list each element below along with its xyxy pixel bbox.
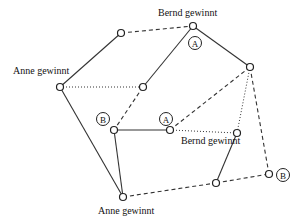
edge-dashed-p4-p6 xyxy=(114,87,143,130)
vertices-layer xyxy=(57,23,273,201)
edge-dashed-p11-p9 xyxy=(123,183,216,197)
vertex-p11 xyxy=(120,194,127,201)
player-badge-a: A xyxy=(160,113,173,126)
edge-solid-p2-p4 xyxy=(143,26,193,87)
vertex-p4 xyxy=(140,84,147,91)
svg-text:A: A xyxy=(192,39,199,49)
outcome-label: Bernd gewinnt xyxy=(158,7,217,18)
edge-solid-p3-p11 xyxy=(60,87,123,197)
edge-dotted-p5-p8 xyxy=(237,67,250,133)
game-graph-diagram: ABAB Bernd gewinntAnne gewinntBernd gewi… xyxy=(0,0,299,224)
svg-text:A: A xyxy=(163,115,170,125)
edge-dashed-p1-p2 xyxy=(121,26,193,33)
player-badge-a: A xyxy=(189,37,202,50)
vertex-p3 xyxy=(57,84,64,91)
vertex-p2 xyxy=(190,23,197,30)
player-badge-b: B xyxy=(97,113,110,126)
vertex-p9 xyxy=(213,180,220,187)
edge-dashed-p9-p10 xyxy=(216,174,269,183)
edge-dotted-p7-p8 xyxy=(170,130,237,133)
vertex-p7 xyxy=(167,127,174,134)
outcome-label: Anne gewinnt xyxy=(13,65,70,76)
edge-dashed-p5-p10 xyxy=(250,67,269,174)
player-badge-b: B xyxy=(277,169,290,182)
edge-solid-p1-p3 xyxy=(60,33,121,87)
outcome-label: Anne gewinnt xyxy=(98,205,155,216)
outcome-label: Bernd gewinnt xyxy=(181,135,240,146)
edge-solid-p6-p11 xyxy=(114,130,123,197)
edge-dashed-p5-p7 xyxy=(170,67,250,130)
svg-text:B: B xyxy=(100,115,106,125)
svg-text:B: B xyxy=(280,171,286,181)
vertex-p6 xyxy=(111,127,118,134)
vertex-p1 xyxy=(118,30,125,37)
badges-layer: ABAB xyxy=(97,37,290,182)
edges-layer xyxy=(60,26,269,197)
vertex-p10 xyxy=(266,171,273,178)
edge-solid-p2-p5 xyxy=(193,26,250,67)
vertex-p5 xyxy=(247,64,254,71)
